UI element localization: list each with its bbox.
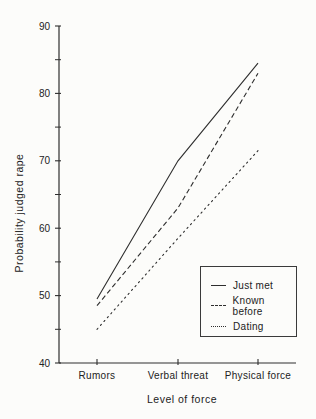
y-tick-label: 40	[39, 358, 51, 369]
solid-line-sample-icon	[211, 285, 226, 286]
dashed-line-sample-icon	[211, 305, 226, 306]
legend-box: Just met Known before Dating	[200, 266, 297, 337]
x-axis-title: Level of force	[147, 393, 217, 405]
y-tick-label: 50	[39, 290, 51, 301]
chart-figure: 405060708090RumorsVerbal threatPhysical …	[0, 0, 316, 419]
y-axis-title: Probability judged rape	[13, 154, 25, 273]
series-line-just-met	[97, 63, 258, 299]
x-tick-label: Rumors	[79, 370, 116, 381]
y-tick-label: 90	[39, 21, 51, 32]
x-tick-label: Verbal threat	[148, 370, 209, 381]
y-tick-label: 70	[39, 155, 51, 166]
line-chart-canvas: 405060708090RumorsVerbal threatPhysical …	[0, 0, 316, 419]
dotted-line-sample-icon	[211, 326, 226, 327]
legend-item-just-met: Just met	[211, 275, 296, 295]
legend-label: Just met	[233, 280, 273, 291]
y-tick-label: 60	[39, 223, 51, 234]
y-tick-label: 80	[39, 88, 51, 99]
legend-item-known-before: Known before	[211, 295, 296, 316]
legend-label: Known before	[233, 295, 296, 317]
legend-item-dating: Dating	[211, 316, 296, 336]
x-tick-label: Physical force	[225, 370, 292, 381]
legend-label: Dating	[233, 321, 264, 332]
